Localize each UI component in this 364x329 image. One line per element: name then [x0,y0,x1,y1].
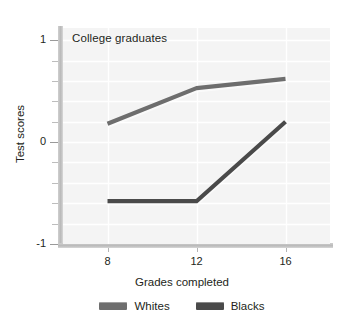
legend-item[interactable]: Blacks [196,300,265,312]
y-tick-mark [50,244,58,245]
y-tick-mark [52,122,58,123]
y-tick-label: 0 [12,136,46,147]
y-tick-mark [52,224,58,225]
x-tick-label: 8 [88,256,128,267]
y-tick-mark [52,183,58,184]
plot-canvas [63,28,330,244]
x-axis-title: Grades completed [0,276,364,288]
y-tick-label: -1 [12,238,46,249]
legend-swatch-icon [196,302,224,310]
y-tick-mark [52,101,58,102]
x-tick-label: 12 [177,256,217,267]
legend-item[interactable]: Whites [99,300,169,312]
y-tick-mark [50,40,58,41]
x-tick-mark [286,248,287,252]
y-tick-mark [52,162,58,163]
legend-label: Whites [134,300,169,312]
plot-area [63,28,330,244]
legend-swatch-icon [99,302,127,310]
chart-figure: Test scores 10-1 College graduates 81216… [0,0,364,329]
x-tick-mark [197,248,198,252]
x-tick-label: 16 [266,256,306,267]
y-tick-mark [50,142,58,143]
y-axis-title: Test scores [14,74,26,194]
y-tick-mark [52,81,58,82]
y-tick-mark [52,61,58,62]
series-line-blacks [108,122,286,201]
chart-legend: WhitesBlacks [0,300,364,312]
x-tick-mark [108,248,109,252]
y-tick-label: 1 [12,34,46,45]
chart-title: College graduates [72,32,167,44]
legend-label: Blacks [231,300,265,312]
y-tick-mark [52,203,58,204]
